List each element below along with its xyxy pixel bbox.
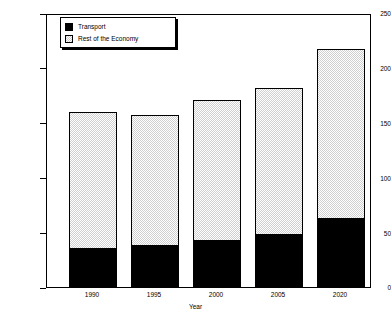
bar-2005-segment-transport	[255, 234, 303, 287]
bar-1990-segment-rest-of-the-economy	[69, 112, 117, 249]
legend-item-rest-of-the-economy: Rest of the Economy	[65, 33, 171, 45]
stacked-bar-chart: 250 200 150 100 50 0 Millions of Tonnes …	[0, 0, 391, 322]
bar-1990-segment-transport	[69, 248, 117, 287]
bar-1995-segment-rest-of-the-economy	[131, 115, 179, 246]
chart-legend: Transport Rest of the Economy	[60, 17, 176, 48]
x-tick-label-2005: 2005	[255, 291, 301, 299]
bar-1995	[131, 115, 179, 287]
bar-2020	[317, 49, 365, 287]
bar-2020-segment-transport	[317, 218, 365, 287]
legend-item-transport: Transport	[65, 21, 171, 33]
legend-label-transport: Transport	[78, 23, 106, 31]
x-tick-label-2000: 2000	[193, 291, 239, 299]
bar-2005	[255, 88, 303, 287]
bar-2020-segment-rest-of-the-economy	[317, 49, 365, 219]
bar-2005-segment-rest-of-the-economy	[255, 88, 303, 235]
x-tick-label-2020: 2020	[317, 291, 363, 299]
legend-swatch-rest-of-the-economy-icon	[65, 35, 73, 43]
bar-1995-segment-transport	[131, 245, 179, 287]
bar-1990	[69, 112, 117, 287]
bar-2000-segment-rest-of-the-economy	[193, 100, 241, 241]
legend-label-rest-of-the-economy: Rest of the Economy	[78, 35, 138, 43]
x-axis-title: Year	[0, 303, 391, 311]
plot-area: Transport Rest of the Economy	[46, 14, 371, 288]
y-tick-mark-0	[40, 288, 46, 289]
x-tick-label-1990: 1990	[69, 291, 115, 299]
legend-swatch-transport-icon	[65, 23, 73, 31]
bar-2000-segment-transport	[193, 240, 241, 287]
bar-2000	[193, 100, 241, 287]
x-tick-label-1995: 1995	[131, 291, 177, 299]
